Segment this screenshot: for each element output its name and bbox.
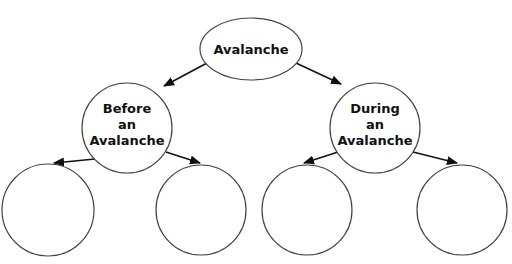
- blank-circle-before-1: [2, 164, 94, 256]
- node-root: Avalanche: [200, 18, 302, 80]
- concept-map: Avalanche Before an Avalanche During an …: [0, 0, 512, 264]
- blank-circle-during-2: [417, 165, 507, 255]
- blank-circle-before-2: [156, 165, 246, 255]
- root-label: Avalanche: [213, 42, 288, 57]
- during-label-line-2: an: [366, 117, 384, 132]
- during-label-line-1: During: [350, 101, 399, 116]
- during-label-line-3: Avalanche: [337, 133, 412, 148]
- before-label-line-2: an: [118, 117, 136, 132]
- arrow-during-to-blank-1: [304, 152, 338, 163]
- node-before: Before an Avalanche: [82, 83, 172, 173]
- before-label-line-3: Avalanche: [89, 133, 164, 148]
- blank-circle-during-1: [262, 165, 352, 255]
- arrow-during-to-blank-2: [413, 152, 457, 163]
- arrow-root-to-during: [296, 63, 341, 84]
- arrow-root-to-before: [164, 63, 207, 86]
- arrow-before-to-blank-1: [54, 159, 95, 163]
- before-label-line-1: Before: [103, 101, 152, 116]
- arrow-before-to-blank-2: [166, 152, 200, 163]
- node-during: During an Avalanche: [330, 83, 420, 173]
